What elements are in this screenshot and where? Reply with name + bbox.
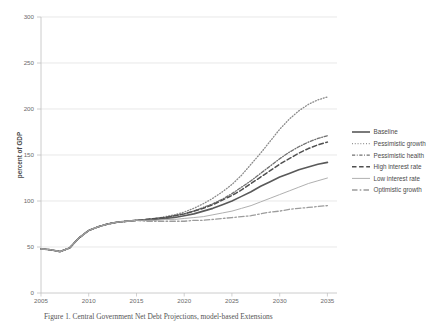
x-tick-label-2005: 2005 bbox=[34, 297, 48, 304]
y-tick-label-100: 100 bbox=[24, 197, 35, 204]
legend-label-high-interest-rate: High interest rate bbox=[374, 163, 422, 171]
y-tick-label-50: 50 bbox=[27, 243, 34, 250]
x-tick-label-2020: 2020 bbox=[177, 297, 191, 304]
y-tick-label-150: 150 bbox=[24, 151, 35, 158]
x-tick-label-2015: 2015 bbox=[130, 297, 144, 304]
y-axis-ticks bbox=[37, 17, 41, 293]
x-tick-label-2030: 2030 bbox=[273, 297, 287, 304]
y-tick-label-200: 200 bbox=[24, 105, 35, 112]
legend-label-baseline: Baseline bbox=[374, 128, 399, 135]
legend-label-pessimistic-health: Pessimistic health bbox=[374, 152, 425, 159]
y-tick-label-250: 250 bbox=[24, 59, 35, 66]
y-tick-label-300: 300 bbox=[24, 13, 35, 20]
legend-label-low-interest-rate: Low interest rate bbox=[374, 175, 421, 182]
y-axis-title: percent of GDP bbox=[16, 131, 24, 178]
x-tick-label-2010: 2010 bbox=[82, 297, 96, 304]
legend-label-pessimistic-growth: Pessimistic growth bbox=[374, 140, 427, 148]
debt-projection-line-chart: 300 250 200 150 100 50 0 2005 2010 2015 … bbox=[0, 0, 440, 326]
figure-caption: Figure 1. Central Government Net Debt Pr… bbox=[44, 311, 384, 322]
x-tick-label-2025: 2025 bbox=[225, 297, 239, 304]
legend-label-optimistic-growth: Optimistic growth bbox=[374, 186, 423, 194]
x-tick-label-2035: 2035 bbox=[321, 297, 335, 304]
figure-container: 300 250 200 150 100 50 0 2005 2010 2015 … bbox=[0, 0, 440, 326]
chart-legend: BaselinePessimistic growthPessimistic he… bbox=[352, 128, 426, 194]
x-axis-ticks bbox=[41, 293, 327, 297]
y-tick-label-0: 0 bbox=[31, 289, 35, 296]
